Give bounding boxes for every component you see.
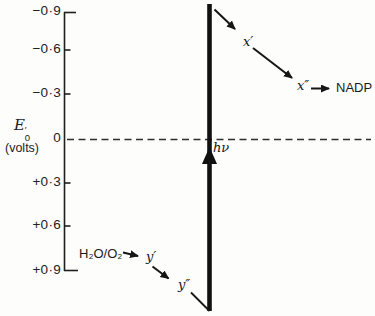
tick-label-plus-0-9: +0·9: [24, 263, 61, 278]
line-y-double-prime-to-boost-base: [191, 293, 210, 312]
photon-label: hν: [213, 141, 229, 155]
y-axis: [64, 12, 78, 271]
y-double-prime-label: y″: [178, 278, 190, 292]
tick-label-plus-0-6: +0·6: [24, 218, 61, 233]
x-double-prime-label: x″: [297, 79, 309, 93]
tick-label-minus-0-9: −0·9: [24, 4, 61, 19]
arrow-x-prime-to-x-double-prime: [253, 48, 292, 78]
tick-label-plus-0-3: +0·3: [24, 175, 61, 190]
y-prime-label: y′: [146, 250, 156, 264]
tick-label-minus-0-6: −0·6: [24, 42, 61, 57]
arrow-water-to-y-prime: [123, 253, 138, 257]
water-oxygen-label: H₂O/O₂: [79, 247, 122, 261]
x-prime-label: x′: [243, 35, 253, 49]
arrow-top-to-x-prime: [215, 10, 236, 30]
z-scheme-figure: E′0 (volts) −0·9 −0·6 −0·3 0 +0·3 +0·6 +…: [0, 0, 375, 316]
tick-label-zero: 0: [24, 131, 61, 146]
tick-label-minus-0-3: −0·3: [24, 86, 61, 101]
arrow-y-prime-to-y-double-prime: [153, 267, 169, 279]
nadp-label: NADP: [336, 81, 372, 95]
